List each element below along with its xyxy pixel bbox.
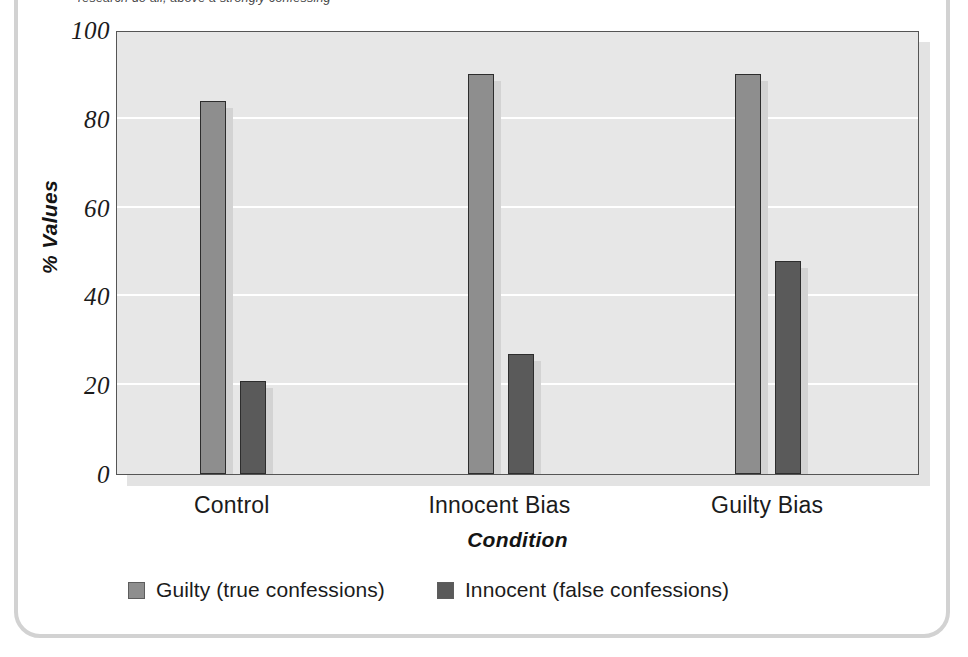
- bar-guilty-bias-innocent: [775, 261, 801, 474]
- legend-item[interactable]: Innocent (false confessions): [437, 578, 729, 602]
- bar-guilty-bias-guilty: [735, 74, 761, 474]
- bar-chart: 020406080100 % Values ControlInnocent Bi…: [0, 0, 968, 657]
- plot-area: [116, 31, 919, 475]
- legend-swatch-icon: [128, 582, 145, 599]
- bar-innocent-bias-guilty: [468, 74, 494, 474]
- y-tick-label: 80: [26, 106, 110, 134]
- x-tick-label: Guilty Bias: [667, 492, 867, 519]
- y-axis-ticks: 020406080100: [18, 31, 110, 475]
- y-tick-label: 0: [26, 461, 110, 489]
- x-tick-label: Innocent Bias: [400, 492, 600, 519]
- bar-control-guilty: [200, 101, 226, 474]
- legend-item[interactable]: Guilty (true confessions): [128, 578, 385, 602]
- bar-control-innocent: [240, 381, 266, 474]
- x-tick-label: Control: [132, 492, 332, 519]
- y-tick-label: 20: [26, 372, 110, 400]
- y-tick-label: 100: [26, 17, 110, 45]
- gridline: [117, 206, 918, 208]
- chart-legend: Guilty (true confessions)Innocent (false…: [116, 578, 756, 602]
- legend-swatch-icon: [437, 582, 454, 599]
- legend-label: Guilty (true confessions): [156, 578, 385, 602]
- gridline: [117, 117, 918, 119]
- bar-innocent-bias-innocent: [508, 354, 534, 474]
- x-axis-label: Condition: [116, 528, 919, 552]
- y-axis-label: % Values: [38, 147, 62, 307]
- legend-label: Innocent (false confessions): [465, 578, 729, 602]
